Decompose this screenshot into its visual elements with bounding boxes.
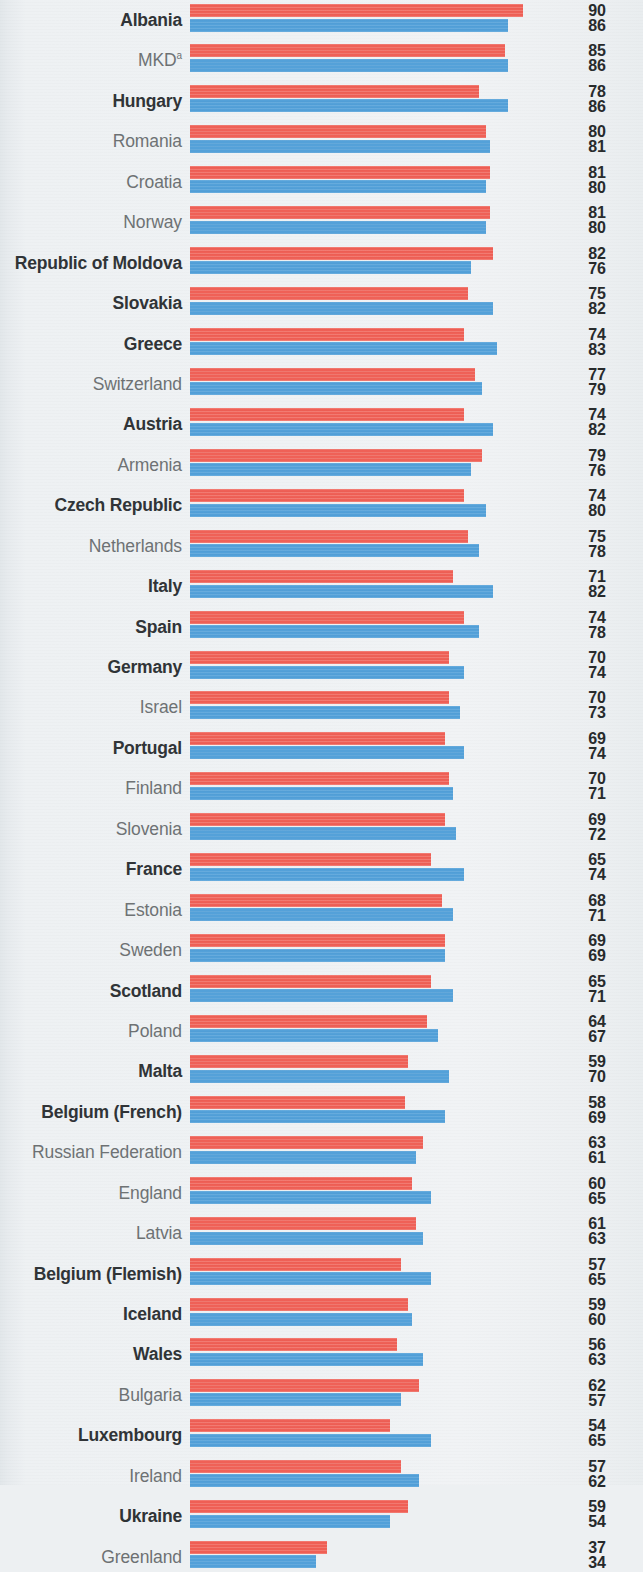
value-series-b: 69 bbox=[560, 1110, 606, 1125]
category-label: Albania bbox=[120, 0, 182, 40]
bar-series-a bbox=[190, 166, 490, 179]
bar-pair bbox=[190, 4, 570, 36]
bar-series-a bbox=[190, 1055, 408, 1068]
bar-series-a bbox=[190, 368, 475, 381]
value-series-a: 90 bbox=[560, 3, 606, 18]
value-series-b: 78 bbox=[560, 544, 606, 559]
chart-row: Wales5663 bbox=[0, 1334, 643, 1374]
bar-series-b bbox=[190, 59, 508, 72]
bar-series-b bbox=[190, 1515, 390, 1528]
bar-pair bbox=[190, 1500, 570, 1532]
chart-row: Greece7483 bbox=[0, 324, 643, 364]
bar-series-b bbox=[190, 544, 479, 557]
chart-row: Spain7478 bbox=[0, 607, 643, 647]
bar-series-a bbox=[190, 611, 464, 624]
value-labels: 6871 bbox=[560, 890, 606, 930]
bar-series-a bbox=[190, 206, 490, 219]
value-labels: 6163 bbox=[560, 1213, 606, 1253]
value-series-a: 37 bbox=[560, 1540, 606, 1555]
bar-series-b bbox=[190, 99, 508, 112]
value-labels: 5765 bbox=[560, 1254, 606, 1294]
value-labels: 7071 bbox=[560, 768, 606, 808]
value-series-b: 62 bbox=[560, 1474, 606, 1489]
bar-series-b bbox=[190, 1555, 316, 1568]
bar-series-b bbox=[190, 1191, 431, 1204]
value-series-a: 79 bbox=[560, 448, 606, 463]
category-label: France bbox=[126, 849, 182, 889]
bar-series-b bbox=[190, 1070, 449, 1083]
value-series-b: 71 bbox=[560, 989, 606, 1004]
bar-series-b bbox=[190, 787, 453, 800]
value-series-b: 82 bbox=[560, 422, 606, 437]
category-label: Ukraine bbox=[119, 1496, 182, 1536]
bar-series-a bbox=[190, 813, 445, 826]
value-series-b: 82 bbox=[560, 584, 606, 599]
value-series-a: 68 bbox=[560, 893, 606, 908]
value-series-a: 75 bbox=[560, 529, 606, 544]
bar-series-a bbox=[190, 894, 442, 907]
category-label: Greece bbox=[124, 324, 182, 364]
chart-row: Russian Federation6361 bbox=[0, 1132, 643, 1172]
value-series-b: 74 bbox=[560, 867, 606, 882]
bar-series-a bbox=[190, 489, 464, 502]
value-series-b: 78 bbox=[560, 625, 606, 640]
bar-series-a bbox=[190, 1136, 423, 1149]
category-label: Poland bbox=[128, 1011, 182, 1051]
value-series-a: 63 bbox=[560, 1135, 606, 1150]
category-label: Scotland bbox=[110, 971, 182, 1011]
value-labels: 6257 bbox=[560, 1375, 606, 1415]
chart-row: Poland6467 bbox=[0, 1011, 643, 1051]
bar-series-b bbox=[190, 1029, 438, 1042]
chart-row: Norway8180 bbox=[0, 202, 643, 242]
value-series-b: 65 bbox=[560, 1272, 606, 1287]
category-label: Portugal bbox=[113, 728, 182, 768]
category-label: Israel bbox=[140, 687, 182, 727]
bar-pair bbox=[190, 894, 570, 926]
value-series-a: 60 bbox=[560, 1176, 606, 1191]
category-label: Slovakia bbox=[113, 283, 182, 323]
bar-series-a bbox=[190, 1258, 401, 1271]
value-series-b: 67 bbox=[560, 1029, 606, 1044]
bar-pair bbox=[190, 1015, 570, 1047]
value-series-b: 71 bbox=[560, 908, 606, 923]
value-series-b: 57 bbox=[560, 1393, 606, 1408]
bar-pair bbox=[190, 44, 570, 76]
value-series-b: 74 bbox=[560, 746, 606, 761]
value-labels: 6574 bbox=[560, 849, 606, 889]
value-series-a: 75 bbox=[560, 286, 606, 301]
value-labels: 5970 bbox=[560, 1051, 606, 1091]
bar-series-b bbox=[190, 302, 493, 315]
category-label: Romania bbox=[113, 121, 182, 161]
value-series-a: 85 bbox=[560, 43, 606, 58]
bar-series-a bbox=[190, 125, 486, 138]
category-label: MKDa bbox=[138, 40, 182, 80]
bar-series-a bbox=[190, 651, 449, 664]
bar-series-a bbox=[190, 85, 479, 98]
bar-series-b bbox=[190, 1474, 419, 1487]
value-series-a: 57 bbox=[560, 1459, 606, 1474]
bar-series-b bbox=[190, 19, 508, 32]
chart-row: Romania8081 bbox=[0, 121, 643, 161]
category-label: Wales bbox=[133, 1334, 182, 1374]
value-series-b: 79 bbox=[560, 382, 606, 397]
bar-pair bbox=[190, 772, 570, 804]
chart-row: Scotland6571 bbox=[0, 971, 643, 1011]
value-series-b: 83 bbox=[560, 342, 606, 357]
value-series-a: 65 bbox=[560, 852, 606, 867]
value-labels: 6467 bbox=[560, 1011, 606, 1051]
bar-series-a bbox=[190, 1298, 408, 1311]
category-label: Spain bbox=[135, 607, 182, 647]
chart-rows: Albania9086MKDa8586Hungary7886Romania808… bbox=[0, 0, 643, 1572]
value-series-b: 80 bbox=[560, 220, 606, 235]
value-series-a: 81 bbox=[560, 165, 606, 180]
value-labels: 6974 bbox=[560, 728, 606, 768]
bar-series-a bbox=[190, 1379, 419, 1392]
bar-series-b bbox=[190, 827, 456, 840]
category-label: Ireland bbox=[129, 1456, 182, 1496]
bar-series-b bbox=[190, 423, 493, 436]
bar-series-b bbox=[190, 949, 445, 962]
bar-series-a bbox=[190, 1541, 327, 1554]
value-labels: 7073 bbox=[560, 687, 606, 727]
value-labels: 6571 bbox=[560, 971, 606, 1011]
